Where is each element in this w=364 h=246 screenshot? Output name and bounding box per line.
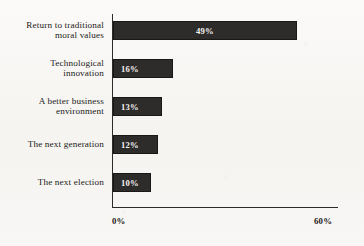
bar-row: The next election 10% — [0, 173, 364, 192]
bar-value-label: 13% — [121, 102, 139, 113]
bar-value-label: 49% — [114, 26, 296, 37]
bar-value-label: 10% — [121, 178, 139, 189]
bar-row: A better business environment 13% — [0, 97, 364, 116]
bar-value-label: 16% — [121, 64, 139, 75]
x-axis-tick-min: 0% — [112, 216, 126, 226]
plot-area: Return to traditional moral values 49% T… — [0, 0, 364, 246]
category-label: A better business environment — [6, 96, 104, 117]
x-axis-tick-max: 60% — [314, 216, 332, 226]
category-label: Return to traditional moral values — [6, 20, 104, 41]
bar: 13% — [113, 97, 162, 116]
bar-row: The next generation 12% — [0, 135, 364, 154]
category-label: The next election — [6, 177, 104, 187]
category-label: Technological innovation — [6, 58, 104, 79]
bar: 49% — [113, 21, 297, 40]
bar-row: Technological innovation 16% — [0, 59, 364, 78]
bar-chart: Return to traditional moral values 49% T… — [0, 0, 364, 246]
bar: 12% — [113, 135, 158, 154]
bar-row: Return to traditional moral values 49% — [0, 21, 364, 40]
category-label: The next generation — [6, 139, 104, 149]
x-axis-line — [112, 207, 338, 208]
bar-value-label: 12% — [121, 140, 139, 151]
bar: 16% — [113, 59, 173, 78]
bar: 10% — [113, 173, 151, 192]
